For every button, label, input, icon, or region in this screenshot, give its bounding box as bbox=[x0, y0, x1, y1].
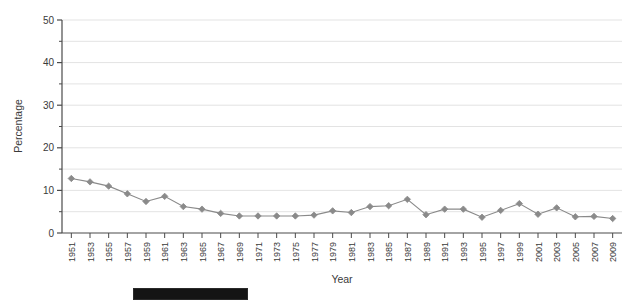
y-tick-label: 20 bbox=[43, 142, 55, 153]
x-tick-label: 1979 bbox=[328, 242, 338, 262]
data-point-marker bbox=[479, 214, 485, 220]
x-tick-label: 1985 bbox=[384, 242, 394, 262]
data-point-marker bbox=[311, 212, 317, 218]
redaction-bar bbox=[133, 288, 248, 300]
x-tick-label: 1957 bbox=[123, 242, 133, 262]
data-point-marker bbox=[87, 179, 93, 185]
y-tick-label: 40 bbox=[43, 57, 55, 68]
x-axis-title: Year bbox=[331, 273, 353, 285]
x-tick-label: 1977 bbox=[310, 242, 320, 262]
x-tick-label: 1953 bbox=[86, 242, 96, 262]
x-tick-label: 1991 bbox=[440, 242, 450, 262]
data-point-marker bbox=[329, 208, 335, 214]
data-point-marker bbox=[497, 207, 503, 213]
x-tick-label: 1955 bbox=[104, 242, 114, 262]
data-point-marker bbox=[609, 215, 615, 221]
x-tick-label: 2009 bbox=[608, 242, 618, 262]
data-point-marker bbox=[385, 203, 391, 209]
data-point-marker bbox=[255, 213, 261, 219]
x-tick-label: 1967 bbox=[216, 242, 226, 262]
data-point-marker bbox=[105, 183, 111, 189]
x-tick-label: 1973 bbox=[272, 242, 282, 262]
x-tick-label: 1963 bbox=[179, 242, 189, 262]
data-point-marker bbox=[180, 203, 186, 209]
y-tick-label: 10 bbox=[43, 185, 55, 196]
x-tick-label: 1981 bbox=[347, 242, 357, 262]
x-tick-label: 2007 bbox=[590, 242, 600, 262]
data-point-marker bbox=[292, 213, 298, 219]
data-point-marker bbox=[348, 209, 354, 215]
data-point-marker bbox=[143, 198, 149, 204]
y-tick-label: 0 bbox=[48, 228, 54, 239]
x-tick-label: 1951 bbox=[67, 242, 77, 262]
data-point-marker bbox=[591, 213, 597, 219]
data-point-marker bbox=[572, 214, 578, 220]
y-axis-title: Percentage bbox=[12, 99, 24, 153]
y-axis-ticks bbox=[57, 20, 62, 233]
data-point-marker bbox=[236, 213, 242, 219]
x-tick-label: 2005 bbox=[571, 242, 581, 262]
x-tick-label: 1969 bbox=[235, 242, 245, 262]
x-axis-tick-labels: 1951195319551957195919611963196519671969… bbox=[67, 242, 618, 262]
data-point-marker bbox=[553, 205, 559, 211]
x-tick-label: 2001 bbox=[534, 242, 544, 262]
data-point-marker bbox=[516, 200, 522, 206]
x-tick-label: 1993 bbox=[459, 242, 469, 262]
x-tick-label: 1987 bbox=[403, 242, 413, 262]
x-tick-label: 1989 bbox=[422, 242, 432, 262]
series-line-percentage bbox=[71, 178, 612, 218]
x-tick-label: 1995 bbox=[478, 242, 488, 262]
x-tick-label: 1965 bbox=[198, 242, 208, 262]
y-tick-label: 30 bbox=[43, 100, 55, 111]
data-point-marker bbox=[161, 193, 167, 199]
series-markers-percentage bbox=[68, 175, 616, 221]
data-point-marker bbox=[273, 213, 279, 219]
data-point-marker bbox=[367, 203, 373, 209]
x-tick-label: 1983 bbox=[366, 242, 376, 262]
chart-canvas: 01020304050 1951195319551957195919611963… bbox=[0, 0, 632, 306]
x-tick-label: 1971 bbox=[254, 242, 264, 262]
x-tick-label: 1959 bbox=[142, 242, 152, 262]
line-chart: 01020304050 1951195319551957195919611963… bbox=[0, 0, 632, 306]
data-point-marker bbox=[124, 191, 130, 197]
x-tick-label: 1997 bbox=[496, 242, 506, 262]
gridlines bbox=[62, 20, 622, 212]
x-tick-label: 2003 bbox=[552, 242, 562, 262]
x-tick-label: 1975 bbox=[291, 242, 301, 262]
data-point-marker bbox=[68, 175, 74, 181]
x-tick-label: 1999 bbox=[515, 242, 525, 262]
data-point-marker bbox=[217, 210, 223, 216]
y-axis-tick-labels: 01020304050 bbox=[43, 15, 55, 239]
x-tick-label: 1961 bbox=[160, 242, 170, 262]
x-axis-ticks bbox=[71, 233, 612, 238]
y-tick-label: 50 bbox=[43, 15, 55, 26]
